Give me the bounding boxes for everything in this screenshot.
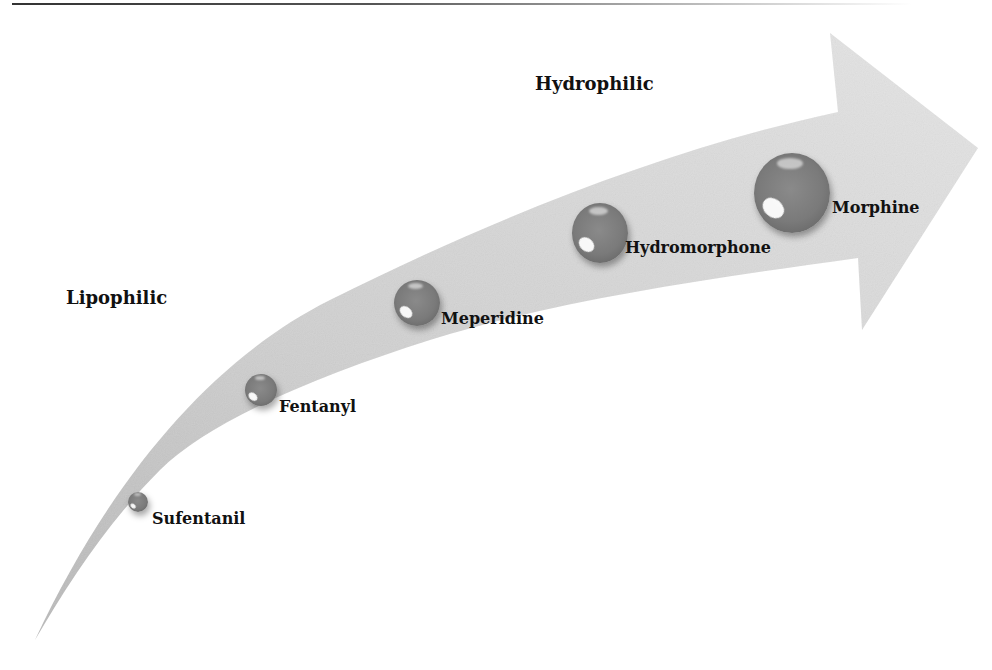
hydromorphone-bubble-icon: [572, 203, 628, 263]
sufentanil-label: Sufentanil: [152, 509, 245, 528]
morphine-label: Morphine: [832, 198, 920, 217]
morphine-bubble-icon: [754, 153, 830, 233]
sufentanil-bubble-icon: [128, 492, 148, 512]
hydrophilic-label: Hydrophilic: [535, 73, 654, 94]
arrow-body: [35, 33, 978, 640]
curved-arrow-icon: [0, 0, 992, 670]
fentanyl-label: Fentanyl: [279, 397, 356, 416]
meperidine-label: Meperidine: [441, 309, 544, 328]
fentanyl-bubble-icon: [245, 374, 277, 406]
hydromorphone-label: Hydromorphone: [625, 238, 771, 257]
meperidine-bubble-icon: [394, 280, 440, 326]
lipophilic-label: Lipophilic: [66, 287, 167, 308]
